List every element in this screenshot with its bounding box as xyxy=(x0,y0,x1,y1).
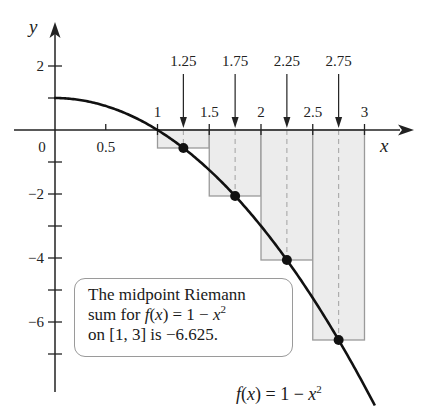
arrowhead-icon xyxy=(180,117,187,128)
note-line-1: The midpoint Riemann xyxy=(88,285,292,305)
x-tick-label: 3 xyxy=(361,104,369,120)
midpoint-dot xyxy=(282,255,292,265)
y-tick-label: −2 xyxy=(28,186,44,202)
note-text: on [1, 3] is −6.625. xyxy=(88,325,218,344)
curve-var: x xyxy=(247,384,255,404)
curve-label-text: ) = 1 − xyxy=(255,384,308,404)
x-tick-label: 1 xyxy=(154,104,162,120)
x-tick-label: 0.5 xyxy=(96,139,115,155)
arrowhead-icon xyxy=(232,117,239,128)
y-tick-label: −4 xyxy=(28,250,44,266)
arrowhead-icon xyxy=(335,117,342,128)
note-exponent: 2 xyxy=(221,303,227,315)
curve-label: f(x) = 1 − x2 xyxy=(236,384,322,405)
x-axis-arrow-icon xyxy=(398,125,414,136)
midpoint-label: 1.25 xyxy=(170,53,196,69)
x-axis-label: x xyxy=(379,135,389,156)
midpoint-dot xyxy=(334,335,344,345)
note-text: ) = 1 − xyxy=(163,305,213,324)
midpoint-label: 2.75 xyxy=(326,53,352,69)
midpoint-label: 1.75 xyxy=(222,53,248,69)
note-var: x xyxy=(155,305,163,324)
y-tick-label: −6 xyxy=(28,314,44,330)
arrowhead-icon xyxy=(283,117,290,128)
note-text: The midpoint Riemann xyxy=(88,285,246,304)
y-tick-label: 2 xyxy=(37,58,45,74)
riemann-sum-note: The midpoint Riemann sum for f(x) = 1 − … xyxy=(74,278,293,357)
note-line-2: sum for f(x) = 1 − x2 xyxy=(88,305,292,325)
note-line-3: on [1, 3] is −6.625. xyxy=(88,325,292,345)
note-var: x xyxy=(213,305,221,324)
note-text: sum for xyxy=(88,305,145,324)
midpoint-dot xyxy=(178,143,188,153)
x-tick-label: 2.5 xyxy=(303,104,322,120)
y-axis-label: y xyxy=(27,16,38,37)
origin-label: 0 xyxy=(38,139,46,155)
x-tick-label: 2 xyxy=(257,104,265,120)
midpoint-label: 2.25 xyxy=(274,53,300,69)
x-tick-label: 1.5 xyxy=(200,104,219,120)
midpoint-dot xyxy=(230,191,240,201)
curve-exponent: 2 xyxy=(316,383,322,395)
